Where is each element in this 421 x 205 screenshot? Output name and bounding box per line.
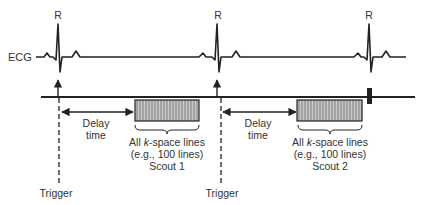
delay-label-line1: Delay: [83, 117, 110, 129]
scout-label-line2: (e.g., 100 lines): [292, 148, 368, 160]
scout-block-1: [135, 100, 199, 121]
scout-label-1: All k-space lines (e.g., 100 lines) Scou…: [129, 136, 205, 172]
delay-label-line2: time: [83, 129, 110, 141]
end-marker: [367, 88, 372, 104]
brace-2: [298, 125, 362, 134]
trigger-label-1: Trigger: [40, 187, 73, 199]
delay-label-2: Delay time: [245, 117, 272, 141]
delay-label-line2: time: [245, 129, 272, 141]
scout-label-line3: Scout 2: [292, 160, 368, 172]
ecg-label: ECG: [8, 51, 32, 63]
brace-1: [135, 125, 199, 134]
scout-block-2: [297, 100, 362, 121]
delay-label-line1: Delay: [245, 117, 272, 129]
r-peak-label-3: R: [365, 9, 373, 21]
ecg-trace: [36, 24, 406, 72]
r-peak-label-1: R: [54, 9, 62, 21]
delay-label-1: Delay time: [83, 117, 110, 141]
scout-label-line3: Scout 1: [129, 160, 205, 172]
ecg-gating-diagram: [0, 0, 421, 205]
scout-label-line1: All k-space lines: [292, 136, 368, 148]
scout-label-line1: All k-space lines: [129, 136, 205, 148]
scout-label-line2: (e.g., 100 lines): [129, 148, 205, 160]
scout-label-2: All k-space lines (e.g., 100 lines) Scou…: [292, 136, 368, 172]
r-peak-label-2: R: [214, 9, 222, 21]
trigger-label-2: Trigger: [206, 187, 239, 199]
